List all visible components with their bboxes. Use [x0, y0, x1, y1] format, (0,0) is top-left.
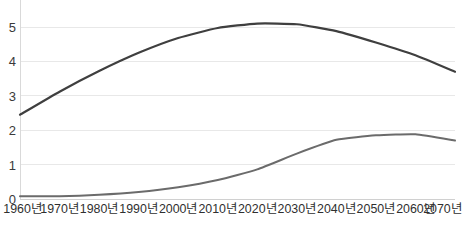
x-tick-label: 1960년 [3, 203, 42, 217]
series-line-upper-series [20, 23, 455, 114]
x-tick-label: 2010년 [198, 203, 237, 217]
x-tick-label: 2050년 [357, 203, 396, 217]
x-tick-label: 2040년 [317, 203, 356, 217]
series-line-lower-series [20, 134, 455, 196]
x-tick-label: 2070년 [423, 203, 462, 217]
x-tick-label: 2030년 [278, 203, 317, 217]
x-tick-label: 1970년 [40, 203, 79, 217]
x-axis: 1960년1970년1980년1990년2000년2010년2020년2030년… [0, 203, 465, 227]
x-tick-label: 2000년 [159, 203, 198, 217]
x-tick-label: 2020년 [238, 203, 277, 217]
x-tick-label: 1980년 [80, 203, 119, 217]
x-tick-label: 1990년 [119, 203, 158, 217]
series-lines [20, 23, 455, 196]
line-chart: 5 4 3 2 1 0 1960년1970년1980년1990년2000년201… [0, 0, 465, 227]
gridlines [20, 27, 455, 199]
chart-canvas [0, 0, 465, 227]
